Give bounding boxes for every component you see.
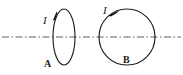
loop-b-label: B	[123, 54, 130, 65]
loop-a-current-label: I	[42, 14, 48, 26]
loop-a-label: A	[44, 58, 52, 69]
loops-on-axis-diagram: I I A B	[0, 0, 183, 75]
figure-canvas: I I A B	[0, 0, 183, 75]
loop-b-current-arrow-icon	[108, 10, 119, 16]
loop-b-current-label: I	[102, 4, 108, 16]
